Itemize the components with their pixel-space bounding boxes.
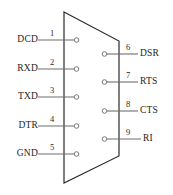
right-pin-circles	[102, 52, 107, 142]
pin-label-dtr: DTR	[6, 120, 38, 130]
pin-label-rts: RTS	[140, 76, 172, 86]
right-pin-circle-8	[102, 109, 107, 114]
pin-label-rxd: RXD	[6, 63, 38, 73]
pin-number-7: 7	[123, 71, 133, 80]
right-pin-circle-7	[102, 80, 107, 85]
left-pin-circle-5	[74, 152, 79, 157]
left-pin-circle-1	[74, 38, 79, 43]
left-pin-circle-2	[74, 67, 79, 72]
pin-label-dcd: DCD	[6, 34, 38, 44]
right-pin-circle-9	[102, 137, 107, 142]
pin-number-9: 9	[123, 128, 133, 137]
left-pin-circle-3	[74, 95, 79, 100]
pin-label-gnd: GND	[6, 148, 38, 158]
pin-label-ri: RI	[143, 133, 173, 143]
pin-label-txd: TXD	[6, 91, 38, 101]
pin-label-cts: CTS	[140, 105, 172, 115]
pin-number-8: 8	[123, 100, 133, 109]
db9-connector-pinout-diagram: DCD RXD TXD DTR GND 1 2 3 4 5 6 7 8 9 DS…	[0, 0, 173, 195]
right-pin-leads	[107, 54, 141, 139]
pin-number-4: 4	[47, 115, 57, 124]
pin-number-5: 5	[47, 143, 57, 152]
left-pin-circles	[74, 38, 79, 157]
pin-label-dsr: DSR	[140, 48, 172, 58]
pin-number-1: 1	[47, 29, 57, 38]
right-pin-circle-6	[102, 52, 107, 57]
left-pin-circle-4	[74, 124, 79, 129]
pin-number-2: 2	[47, 58, 57, 67]
pin-number-6: 6	[123, 43, 133, 52]
pin-number-3: 3	[47, 86, 57, 95]
